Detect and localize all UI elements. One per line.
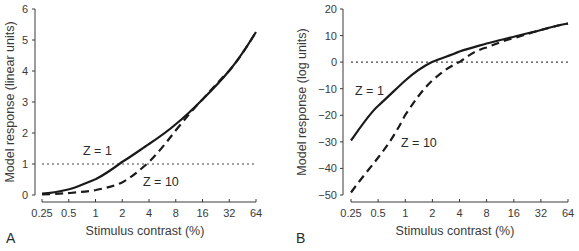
panel-b-letter: B [296, 230, 305, 246]
y-tick-label: −50 [318, 189, 337, 201]
x-tick-label: 16 [196, 207, 208, 219]
y-tick-label: 3 [22, 96, 28, 108]
x-tick-label: 8 [484, 207, 490, 219]
panel-b-x-tick-labels: 0.25 0.5 1 2 4 8 16 32 64 [340, 207, 574, 219]
panel-b-y-axis-title: Model response (log units) [295, 28, 309, 175]
y-tick-label: 20 [325, 3, 337, 15]
panel-b-series-z10 [351, 24, 568, 193]
panel-a-label-z1: Z = 1 [83, 144, 112, 158]
x-tick-label: 8 [173, 207, 179, 219]
x-tick-label: 4 [146, 207, 152, 219]
y-tick-label: 0 [331, 56, 337, 68]
panel-b-series-z1 [351, 24, 568, 141]
x-tick-label: 64 [562, 207, 574, 219]
x-tick-label: 0.5 [61, 207, 76, 219]
panel-a-series-z1 [42, 32, 256, 194]
x-tick-label: 2 [119, 207, 125, 219]
figure: 0 1 2 3 4 5 6 Model response (linear uni… [0, 0, 579, 251]
x-tick-label: 0.25 [340, 207, 361, 219]
x-tick-label: 64 [250, 207, 262, 219]
x-tick-label: 16 [508, 207, 520, 219]
panel-a-label-z10: Z = 10 [143, 175, 179, 189]
x-tick-label: 32 [223, 207, 235, 219]
x-tick-label: 0.25 [31, 207, 52, 219]
panel-b: 20 10 0 −10 −20 −30 −40 −50 Model respon… [295, 3, 574, 246]
panel-a-y-axis-title: Model response (linear units) [3, 21, 17, 182]
panel-a-series-z10 [42, 32, 256, 194]
panel-a-x-tick-labels: 0.25 0.5 1 2 4 8 16 32 64 [31, 207, 262, 219]
y-tick-label: 5 [22, 34, 28, 46]
x-tick-label: 1 [92, 207, 98, 219]
panel-a-x-axis-title: Stimulus contrast (%) [86, 224, 205, 238]
y-tick-label: 6 [22, 3, 28, 15]
panel-a-letter: A [6, 230, 16, 246]
panel-a: 0 1 2 3 4 5 6 Model response (linear uni… [3, 3, 262, 246]
x-tick-label: 1 [402, 207, 408, 219]
panel-b-y-tick-labels: 20 10 0 −10 −20 −30 −40 −50 [318, 3, 337, 201]
y-tick-label: 2 [22, 127, 28, 139]
panel-b-label-z1: Z = 1 [355, 84, 384, 98]
panel-a-y-tick-labels: 0 1 2 3 4 5 6 [22, 3, 28, 201]
y-tick-label: −30 [318, 136, 337, 148]
y-tick-label: 1 [22, 158, 28, 170]
y-tick-label: −40 [318, 162, 337, 174]
y-tick-label: 10 [325, 30, 337, 42]
panel-b-label-z10: Z = 10 [401, 136, 437, 150]
x-tick-label: 4 [456, 207, 462, 219]
y-tick-label: −10 [318, 83, 337, 95]
y-tick-label: 0 [22, 189, 28, 201]
panel-b-x-axis-title: Stimulus contrast (%) [396, 224, 515, 238]
y-tick-label: 4 [22, 65, 28, 77]
x-tick-label: 32 [535, 207, 547, 219]
x-tick-label: 0.5 [370, 207, 385, 219]
y-tick-label: −20 [318, 109, 337, 121]
x-tick-label: 2 [429, 207, 435, 219]
